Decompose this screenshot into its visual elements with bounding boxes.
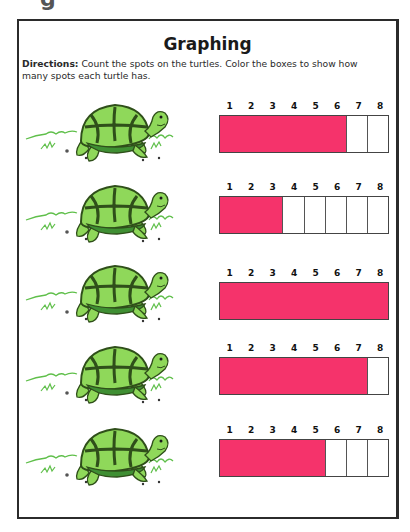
graph-box[interactable] xyxy=(282,440,303,476)
scale-number: 1 xyxy=(219,268,241,278)
scale-number: 4 xyxy=(284,101,306,111)
graph-box[interactable] xyxy=(325,197,346,233)
turtle-icon xyxy=(21,337,181,407)
spot-count-bar xyxy=(219,439,389,477)
scale-number: 2 xyxy=(241,343,263,353)
scale-number: 4 xyxy=(284,425,306,435)
directions-label: Directions: xyxy=(22,58,79,69)
spot-count-bar xyxy=(219,196,389,234)
scale-number: 2 xyxy=(241,182,263,192)
graph-box[interactable] xyxy=(346,116,367,152)
graph-box[interactable] xyxy=(346,440,367,476)
graph-row: 12345678 xyxy=(19,176,396,256)
graph-row: 12345678 xyxy=(19,95,396,175)
graph-box[interactable] xyxy=(367,283,388,319)
graph-box[interactable] xyxy=(282,358,303,394)
scale-number: 8 xyxy=(370,268,392,278)
graph-box[interactable] xyxy=(261,358,282,394)
graph-box[interactable] xyxy=(220,358,240,394)
graph-row: 12345678 xyxy=(19,419,396,499)
worksheet-frame: Graphing Directions: Count the spots on … xyxy=(17,19,399,519)
scale-number: 8 xyxy=(370,101,392,111)
graph-box[interactable] xyxy=(240,358,261,394)
scale-number: 6 xyxy=(327,182,349,192)
graph-box[interactable] xyxy=(282,197,303,233)
graph-box[interactable] xyxy=(304,283,325,319)
spot-count-bar xyxy=(219,357,389,395)
scale-number: 8 xyxy=(370,425,392,435)
scale-numbers: 12345678 xyxy=(219,182,391,192)
graph-box[interactable] xyxy=(240,197,261,233)
graph-box[interactable] xyxy=(304,197,325,233)
scale-number: 7 xyxy=(348,425,370,435)
clipped-title-glyph: g xyxy=(40,0,56,11)
graph-box[interactable] xyxy=(220,197,240,233)
scale-number: 4 xyxy=(284,182,306,192)
scale-number: 2 xyxy=(241,101,263,111)
graph-box[interactable] xyxy=(261,116,282,152)
graph-row: 12345678 xyxy=(19,256,396,336)
scale-number: 1 xyxy=(219,343,241,353)
scale-number: 5 xyxy=(305,425,327,435)
scale-number: 3 xyxy=(262,268,284,278)
graph-box[interactable] xyxy=(261,440,282,476)
graph-box[interactable] xyxy=(282,116,303,152)
scale-number: 7 xyxy=(348,343,370,353)
graph-box[interactable] xyxy=(220,440,240,476)
scale-numbers: 12345678 xyxy=(219,268,391,278)
graph-box[interactable] xyxy=(346,283,367,319)
scale-number: 3 xyxy=(262,425,284,435)
graph-box[interactable] xyxy=(325,116,346,152)
graph-box[interactable] xyxy=(304,358,325,394)
scale-numbers: 12345678 xyxy=(219,101,391,111)
scale-number: 8 xyxy=(370,182,392,192)
graph-box[interactable] xyxy=(240,283,261,319)
graph-box[interactable] xyxy=(367,197,388,233)
scale-number: 1 xyxy=(219,101,241,111)
page-title: Graphing xyxy=(19,34,396,54)
graph-box[interactable] xyxy=(261,197,282,233)
scale-number: 1 xyxy=(219,425,241,435)
scale-numbers: 12345678 xyxy=(219,425,391,435)
graph-box[interactable] xyxy=(346,358,367,394)
graph-box[interactable] xyxy=(304,440,325,476)
graph-box[interactable] xyxy=(325,283,346,319)
graph-box[interactable] xyxy=(261,283,282,319)
scale-number: 6 xyxy=(327,425,349,435)
scale-number: 7 xyxy=(348,182,370,192)
turtle-icon xyxy=(21,95,181,165)
scale-number: 2 xyxy=(241,425,263,435)
scale-number: 5 xyxy=(305,182,327,192)
spot-count-bar xyxy=(219,282,389,320)
scale-number: 4 xyxy=(284,268,306,278)
scale-number: 5 xyxy=(305,268,327,278)
graph-box[interactable] xyxy=(367,440,388,476)
turtle-icon xyxy=(21,256,181,326)
graph-box[interactable] xyxy=(240,116,261,152)
turtle-icon xyxy=(21,419,181,489)
graph-box[interactable] xyxy=(240,440,261,476)
scale-number: 3 xyxy=(262,182,284,192)
graph-box[interactable] xyxy=(220,116,240,152)
scale-number: 8 xyxy=(370,343,392,353)
scale-numbers: 12345678 xyxy=(219,343,391,353)
directions: Directions: Count the spots on the turtl… xyxy=(22,58,382,82)
spot-count-bar xyxy=(219,115,389,153)
scale-number: 5 xyxy=(305,101,327,111)
scale-number: 5 xyxy=(305,343,327,353)
scale-number: 7 xyxy=(348,101,370,111)
graph-box[interactable] xyxy=(282,283,303,319)
scale-number: 1 xyxy=(219,182,241,192)
scale-number: 3 xyxy=(262,101,284,111)
graph-box[interactable] xyxy=(220,283,240,319)
scale-number: 3 xyxy=(262,343,284,353)
graph-box[interactable] xyxy=(304,116,325,152)
graph-box[interactable] xyxy=(367,358,388,394)
scale-number: 7 xyxy=(348,268,370,278)
scale-number: 6 xyxy=(327,343,349,353)
graph-box[interactable] xyxy=(325,440,346,476)
graph-box[interactable] xyxy=(325,358,346,394)
graph-box[interactable] xyxy=(346,197,367,233)
scale-number: 2 xyxy=(241,268,263,278)
graph-box[interactable] xyxy=(367,116,388,152)
